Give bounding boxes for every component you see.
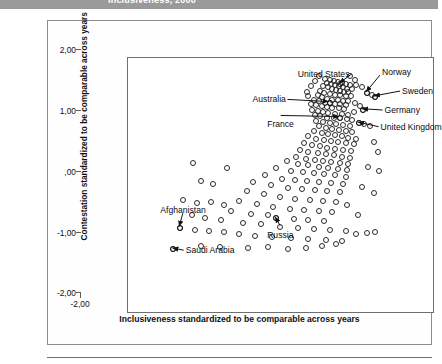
data-point: [190, 160, 196, 166]
data-point: [355, 212, 361, 218]
y-tick-label-0: ,00: [42, 167, 76, 177]
data-point: [351, 141, 357, 147]
page-banner: Inclusiveness, 2000: [0, 0, 438, 9]
data-point: [295, 161, 301, 167]
data-point: [208, 199, 214, 205]
data-point: [339, 238, 345, 244]
data-point: [353, 231, 359, 237]
data-point: [329, 209, 335, 215]
data-point: [316, 164, 322, 170]
data-point: [270, 204, 276, 210]
data-point: [303, 156, 309, 162]
data-point: [328, 180, 334, 186]
page-divider: [47, 357, 432, 358]
data-point: [359, 184, 365, 190]
data-point: [180, 197, 186, 203]
data-point: [375, 149, 381, 155]
data-point: [221, 202, 227, 208]
data-point: [335, 166, 341, 172]
annotation-label-germany: Germany: [385, 105, 420, 115]
data-point: [236, 198, 242, 204]
data-point: [372, 229, 378, 235]
data-point: [228, 208, 234, 214]
annotation-label-norway: Norway: [382, 67, 411, 77]
data-point: [340, 147, 346, 153]
data-point: [268, 182, 274, 188]
data-point: [279, 176, 285, 182]
data-point: [254, 201, 260, 207]
data-point: [371, 139, 377, 145]
annotation-label-russia: Russia: [267, 230, 293, 240]
banner-title: Inclusiveness, 2000: [108, 0, 196, 5]
data-point-highlighted: [170, 246, 176, 252]
data-point: [317, 143, 323, 149]
data-point: [277, 194, 283, 200]
x-tick-label-neg2: -2,00: [60, 299, 100, 309]
data-point: [349, 117, 355, 123]
data-point: [313, 136, 319, 142]
data-point: [300, 169, 306, 175]
data-point: [337, 189, 343, 195]
data-point: [319, 130, 325, 136]
data-point-highlighted: [337, 115, 343, 121]
data-point: [265, 212, 271, 218]
data-point: [332, 132, 338, 138]
data-point: [262, 172, 268, 178]
y-tick-mark-0: [76, 171, 81, 172]
data-point-highlighted: [356, 120, 362, 126]
data-point: [285, 246, 291, 252]
data-point: [347, 155, 353, 161]
data-point: [328, 138, 334, 144]
data-point: [335, 139, 341, 145]
data-point: [248, 211, 254, 217]
data-point: [348, 148, 354, 154]
y-axis-title: Contestation standardized to be comparab…: [79, 6, 90, 246]
data-point: [339, 154, 345, 160]
data-point: [297, 147, 303, 153]
y-tick-label-2: 2,00: [42, 45, 76, 55]
data-point: [331, 152, 337, 158]
data-point: [315, 150, 321, 156]
data-point: [316, 123, 322, 129]
data-point: [210, 181, 216, 187]
data-point: [352, 77, 358, 83]
y-tick-mark-neg1: [76, 232, 81, 233]
data-point: [299, 186, 305, 192]
data-point: [301, 207, 307, 213]
data-point: [311, 170, 317, 176]
data-point: [284, 158, 290, 164]
data-point: [316, 179, 322, 185]
annotation-label-united-kingdom: United Kingdom: [381, 122, 442, 132]
data-point: [344, 202, 350, 208]
data-point: [320, 158, 326, 164]
data-point: [305, 149, 311, 155]
data-point: [273, 165, 279, 171]
data-point: [321, 218, 327, 224]
data-point: [329, 126, 335, 132]
data-point-highlighted: [372, 94, 378, 100]
data-point: [308, 83, 314, 89]
annotation-label-australia: Australia: [252, 94, 285, 104]
data-point: [202, 215, 208, 221]
data-point: [340, 181, 346, 187]
data-point-highlighted: [273, 215, 279, 221]
data-point: [376, 168, 382, 174]
data-point: [365, 164, 371, 170]
data-point: [305, 217, 311, 223]
data-point: [261, 191, 267, 197]
data-point: [295, 225, 301, 231]
data-point: [291, 216, 297, 222]
y-tick-label-neg2: -2,00: [42, 288, 76, 298]
data-point: [303, 245, 309, 251]
data-point: [218, 217, 224, 223]
x-axis-title: Inclusiveness standardized to be compara…: [47, 314, 432, 324]
data-point: [321, 171, 327, 177]
data-point: [343, 140, 349, 146]
data-point: [312, 157, 318, 163]
figure-container: Contestation standardized to be comparab…: [47, 20, 432, 345]
data-point: [301, 140, 307, 146]
annotation-label-france: France: [267, 119, 294, 129]
data-point: [371, 190, 377, 196]
data-point: [332, 146, 338, 152]
